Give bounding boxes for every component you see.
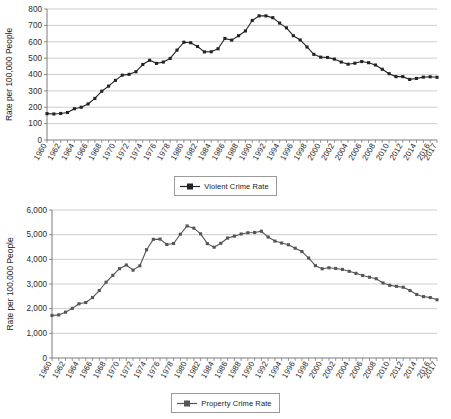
legend-box-violent[interactable]: Violent Crime Rate bbox=[174, 176, 277, 196]
data-point bbox=[408, 78, 411, 81]
violent-crime-svg: 0100200300400500600700800196019621964196… bbox=[0, 0, 451, 175]
y-tick-label: 400 bbox=[28, 70, 42, 79]
series-line bbox=[52, 226, 437, 315]
data-point bbox=[192, 227, 195, 230]
data-point bbox=[206, 242, 209, 245]
data-point bbox=[435, 298, 438, 301]
data-point bbox=[273, 240, 276, 243]
data-point bbox=[91, 296, 94, 299]
data-point bbox=[395, 285, 398, 288]
data-point bbox=[415, 77, 418, 80]
violent-crime-plot: 0100200300400500600700800196019621964196… bbox=[0, 0, 451, 175]
data-point bbox=[226, 237, 229, 240]
data-point bbox=[223, 37, 226, 40]
data-point bbox=[237, 34, 240, 37]
data-point bbox=[278, 22, 281, 25]
data-point bbox=[422, 76, 425, 79]
data-point bbox=[152, 238, 155, 241]
data-point bbox=[217, 47, 220, 50]
data-point bbox=[374, 63, 377, 66]
data-point bbox=[300, 250, 303, 253]
y-tick-label: 800 bbox=[28, 5, 42, 14]
y-tick-label: 500 bbox=[28, 54, 42, 63]
data-point bbox=[354, 272, 357, 275]
data-point bbox=[429, 75, 432, 78]
data-point bbox=[367, 61, 370, 64]
data-point bbox=[118, 267, 121, 270]
data-point bbox=[305, 45, 308, 48]
legend-label-property: Property Crime Rate bbox=[201, 400, 271, 408]
svg-text:Rate per 100,000 People: Rate per 100,000 People bbox=[5, 237, 15, 330]
y-tick-label: 5,000 bbox=[27, 230, 48, 239]
data-point bbox=[429, 296, 432, 299]
data-point bbox=[182, 41, 185, 44]
data-point bbox=[111, 274, 114, 277]
data-point bbox=[121, 74, 124, 77]
data-point bbox=[213, 246, 216, 249]
legend-box-property[interactable]: Property Crime Rate bbox=[171, 393, 279, 413]
data-point bbox=[57, 313, 60, 316]
data-point bbox=[334, 267, 337, 270]
data-point bbox=[233, 235, 236, 238]
data-point bbox=[230, 39, 233, 42]
data-point bbox=[104, 281, 107, 284]
data-point bbox=[98, 289, 101, 292]
data-point bbox=[73, 107, 76, 110]
data-point bbox=[134, 70, 137, 73]
data-point bbox=[285, 26, 288, 29]
data-point bbox=[246, 231, 249, 234]
legend-marker-icon bbox=[180, 182, 200, 191]
data-point bbox=[199, 232, 202, 235]
data-point bbox=[415, 293, 418, 296]
data-point bbox=[422, 295, 425, 298]
data-point bbox=[408, 289, 411, 292]
property-crime-plot: 01,0002,0003,0004,0005,0006,000196019621… bbox=[0, 200, 451, 392]
data-point bbox=[333, 58, 336, 61]
data-point bbox=[381, 281, 384, 284]
data-point bbox=[138, 264, 141, 267]
data-point bbox=[401, 75, 404, 78]
data-point bbox=[271, 16, 274, 19]
y-tick-label: 300 bbox=[28, 87, 42, 96]
data-point bbox=[210, 50, 213, 53]
data-point bbox=[260, 230, 263, 233]
data-point bbox=[189, 41, 192, 44]
data-point bbox=[172, 242, 175, 245]
data-point bbox=[341, 268, 344, 271]
data-point bbox=[169, 57, 172, 60]
data-point bbox=[87, 102, 90, 105]
data-point bbox=[251, 19, 254, 22]
data-point bbox=[381, 68, 384, 71]
data-point bbox=[294, 247, 297, 250]
data-point bbox=[107, 85, 110, 88]
y-tick-label: 100 bbox=[28, 119, 42, 128]
violent-crime-legend: Violent Crime Rate bbox=[0, 176, 451, 196]
data-point bbox=[368, 276, 371, 279]
data-point bbox=[321, 267, 324, 270]
data-point bbox=[162, 61, 165, 64]
y-tick-label: 2,000 bbox=[27, 304, 48, 313]
data-point bbox=[347, 63, 350, 66]
property-crime-svg: 01,0002,0003,0004,0005,0006,000196019621… bbox=[0, 200, 451, 392]
y-tick-label: 700 bbox=[28, 21, 42, 30]
data-point bbox=[66, 111, 69, 114]
property-crime-legend: Property Crime Rate bbox=[0, 393, 451, 413]
data-point bbox=[244, 29, 247, 32]
data-point bbox=[402, 286, 405, 289]
y-tick-label: 3,000 bbox=[27, 280, 48, 289]
data-point bbox=[141, 63, 144, 66]
data-point bbox=[388, 284, 391, 287]
data-point bbox=[253, 231, 256, 234]
y-tick-label: 1,000 bbox=[27, 329, 48, 338]
data-point bbox=[219, 242, 222, 245]
y-tick-label: 600 bbox=[28, 38, 42, 47]
data-point bbox=[435, 76, 438, 79]
data-point bbox=[360, 60, 363, 63]
y-tick-label: 6,000 bbox=[27, 206, 48, 215]
y-tick-label: 200 bbox=[28, 103, 42, 112]
data-point bbox=[307, 257, 310, 260]
data-point bbox=[52, 112, 55, 115]
data-point bbox=[312, 53, 315, 56]
data-point bbox=[314, 264, 317, 267]
data-point bbox=[93, 97, 96, 100]
